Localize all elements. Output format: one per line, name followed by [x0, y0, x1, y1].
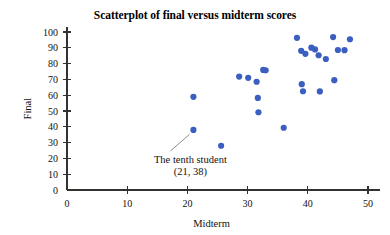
x-tick-label: 50: [363, 198, 373, 209]
y-tick-label: 50: [48, 106, 58, 117]
y-axis-title: Final: [22, 98, 33, 120]
data-point: [317, 88, 323, 94]
y-tick-label: 80: [48, 58, 58, 69]
data-point: [299, 81, 305, 87]
data-point: [316, 52, 322, 58]
data-point: [218, 143, 224, 149]
y-tick-label: 60: [48, 90, 58, 101]
plot-area: 0102030405060708090100 01020304050 The t…: [0, 0, 390, 235]
y-tick-label: 30: [48, 137, 58, 148]
data-point: [341, 47, 347, 53]
data-point: [245, 75, 251, 81]
x-tick-label: 40: [303, 198, 313, 209]
annotation-label-line2: (21, 38): [174, 166, 208, 178]
data-point: [302, 51, 308, 57]
data-point: [331, 77, 337, 83]
data-point: [335, 47, 341, 53]
y-tick-label: 0: [53, 185, 58, 196]
annotation-label-line1: The tenth student: [154, 154, 227, 165]
data-point: [190, 94, 196, 100]
data-point: [255, 109, 261, 115]
x-axis-title: Midterm: [193, 218, 230, 229]
data-point: [263, 67, 269, 73]
data-point: [323, 56, 329, 62]
data-point: [300, 88, 306, 94]
y-tick-label: 40: [48, 121, 58, 132]
data-point: [281, 125, 287, 131]
data-point: [294, 35, 300, 41]
data-points: [190, 34, 353, 149]
annotation-leader-line: [170, 134, 189, 151]
data-point: [236, 73, 242, 79]
data-point: [312, 46, 318, 52]
data-point: [255, 95, 261, 101]
data-point: [254, 79, 260, 85]
x-tick-label: 0: [65, 198, 70, 209]
y-tick-label: 70: [48, 74, 58, 85]
data-point: [347, 36, 353, 42]
x-tick-label: 10: [122, 198, 132, 209]
x-tick-label: 20: [182, 198, 192, 209]
data-point: [330, 34, 336, 40]
y-tick-label: 100: [43, 27, 58, 38]
y-tick-label: 20: [48, 153, 58, 164]
y-tick-label: 90: [48, 42, 58, 53]
x-tick-label: 30: [243, 198, 253, 209]
scatterplot-figure: Scatterplot of final versus midterm scor…: [0, 0, 390, 235]
y-tick-label: 10: [48, 169, 58, 180]
data-point: [190, 127, 196, 133]
